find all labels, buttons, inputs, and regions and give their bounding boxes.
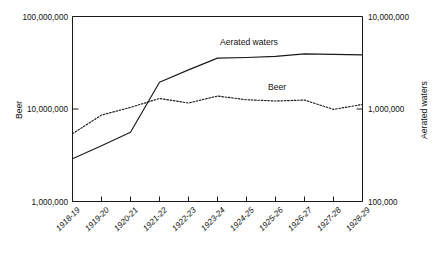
series-annotation-beer: Beer [268, 82, 286, 92]
series-line-aerated-waters [73, 54, 363, 159]
x-axis-tick-labels: 1918-191919-201920-211921-221922-231923-… [54, 205, 372, 233]
left-axis-title: Beer [14, 101, 24, 119]
x-tick-label-1920-21: 1920-21 [112, 206, 140, 234]
chart-figure: 100,000,000 10,000,000 1,000,000 10,000,… [0, 0, 445, 263]
right-axis-title: Aerated waters [419, 81, 429, 139]
x-tick-label-1918-19: 1918-19 [54, 205, 82, 233]
left-tick-label-top: 100,000,000 [22, 13, 68, 22]
axes-frame [73, 17, 363, 202]
x-tick-label-1923-24: 1923-24 [199, 205, 227, 233]
x-tick-label-1925-26: 1925-26 [257, 205, 285, 233]
series-line-beer [73, 96, 363, 134]
left-tick-label-bottom: 1,000,000 [32, 198, 69, 207]
x-tick-label-1926-27: 1926-27 [286, 205, 314, 233]
x-tick-label-1928-29: 1928-29 [344, 205, 372, 233]
left-axis-ticks [73, 17, 79, 202]
x-tick-label-1927-28: 1927-28 [315, 205, 343, 233]
right-tick-label-mid: 1,000,000 [368, 105, 405, 114]
right-tick-label-top: 10,000,000 [368, 13, 409, 22]
x-axis-ticks [73, 197, 363, 202]
series-annotation-aerated-waters: Aerated waters [220, 37, 278, 47]
data-series-layer [73, 54, 363, 159]
x-tick-label-1919-20: 1919-20 [83, 205, 111, 233]
x-tick-label-1922-23: 1922-23 [170, 205, 198, 233]
right-axis-ticks [357, 17, 363, 202]
left-tick-label-mid: 10,000,000 [27, 105, 68, 114]
x-tick-label-1921-22: 1921-22 [141, 205, 169, 233]
line-chart-svg: 100,000,000 10,000,000 1,000,000 10,000,… [0, 0, 445, 263]
right-tick-label-bottom: 100,000 [368, 198, 398, 207]
x-tick-label-1924-25: 1924-25 [228, 205, 256, 233]
